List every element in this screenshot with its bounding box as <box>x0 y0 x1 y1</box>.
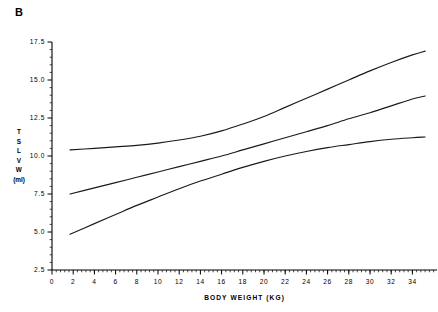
curve-lower-curve <box>70 137 425 234</box>
y-tick-label: 10.0 <box>30 152 45 159</box>
figure-panel-b: B T S L V W (ml) 2.55.07.510.012.515.017… <box>0 0 438 312</box>
x-tick-label: 2 <box>71 278 75 285</box>
x-tick-label: 26 <box>323 278 332 285</box>
x-tick-label: 6 <box>113 278 117 285</box>
x-tick-label: 18 <box>239 278 248 285</box>
x-tick-label: 16 <box>217 278 226 285</box>
plot-area: 2.55.07.510.012.515.017.5 02468101214161… <box>0 0 438 312</box>
curve-upper-curve <box>70 51 425 150</box>
x-tick-label: 32 <box>387 278 396 285</box>
y-tick-label: 7.5 <box>34 190 45 197</box>
x-tick-label: 8 <box>135 278 139 285</box>
y-tick-label: 12.5 <box>30 114 45 121</box>
x-tick-label: 4 <box>92 278 96 285</box>
x-tick-label: 22 <box>281 278 290 285</box>
y-tick-label: 17.5 <box>30 38 45 45</box>
x-tick-label: 24 <box>302 278 311 285</box>
x-tick-label: 34 <box>408 278 417 285</box>
y-tick-label: 2.5 <box>34 266 45 273</box>
data-curves <box>70 51 425 234</box>
curve-middle-curve <box>70 96 425 194</box>
x-axis: 0246810121416182022242628303234 <box>50 270 437 285</box>
y-tick-label: 15.0 <box>30 76 45 83</box>
x-tick-label: 10 <box>154 278 163 285</box>
x-tick-label: 30 <box>366 278 375 285</box>
y-tick-label: 5.0 <box>34 228 45 235</box>
y-axis: 2.55.07.510.012.515.017.5 <box>30 38 52 273</box>
x-tick-label: 28 <box>345 278 354 285</box>
x-axis-title: BODY WEIGHT (KG) <box>204 294 285 302</box>
x-tick-label: 12 <box>175 278 184 285</box>
x-tick-label: 14 <box>196 278 205 285</box>
x-tick-label: 20 <box>260 278 269 285</box>
x-tick-label: 0 <box>50 278 54 285</box>
